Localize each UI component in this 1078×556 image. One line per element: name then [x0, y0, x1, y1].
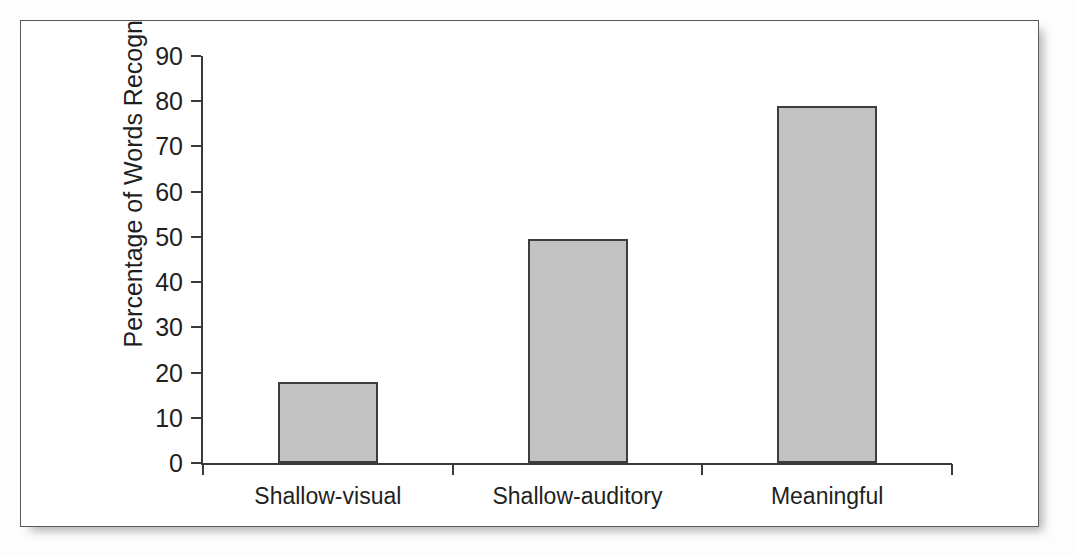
bar-chart-figure-panel: Percentage of Words Recognized 010203040… — [20, 20, 1039, 527]
y-axis-tick-label-text: 90 — [155, 42, 183, 71]
y-axis-tick-label-text: 30 — [155, 313, 183, 342]
y-axis-tick — [191, 100, 201, 102]
bar — [528, 239, 628, 463]
x-axis-category-label: Meaningful — [702, 483, 952, 510]
x-axis-tick — [951, 464, 953, 475]
x-axis-category-label: Shallow-auditory — [453, 483, 703, 510]
y-axis-tick — [191, 417, 201, 419]
y-axis-tick — [191, 281, 201, 283]
bar — [278, 382, 378, 463]
y-axis-tick — [191, 326, 201, 328]
y-axis-tick-label-text: 50 — [155, 223, 183, 252]
y-axis-tick-label-text: 40 — [155, 268, 183, 297]
y-axis-tick — [191, 236, 201, 238]
plot-area: Percentage of Words Recognized 010203040… — [21, 21, 1039, 527]
x-axis-tick — [202, 464, 204, 475]
y-axis-tick — [191, 191, 201, 193]
y-axis-tick — [191, 145, 201, 147]
y-axis-tick-label-text: 0 — [169, 449, 183, 478]
y-axis-tick — [191, 372, 201, 374]
y-axis-line — [201, 56, 203, 465]
y-axis-tick-label-text: 20 — [155, 359, 183, 388]
y-axis-tick-label-text: 60 — [155, 178, 183, 207]
y-axis-title: Percentage of Words Recognized — [119, 28, 148, 348]
x-axis-tick — [701, 464, 703, 475]
y-axis-tick-label-text: 70 — [155, 132, 183, 161]
bar — [777, 106, 877, 463]
x-axis-category-label: Shallow-visual — [203, 483, 453, 510]
x-axis-tick — [452, 464, 454, 475]
x-axis-line — [201, 463, 952, 465]
y-axis-tick — [191, 55, 201, 57]
y-axis-tick-label-text: 80 — [155, 87, 183, 116]
y-axis-tick — [191, 462, 201, 464]
y-axis-tick-label-text: 10 — [155, 404, 183, 433]
